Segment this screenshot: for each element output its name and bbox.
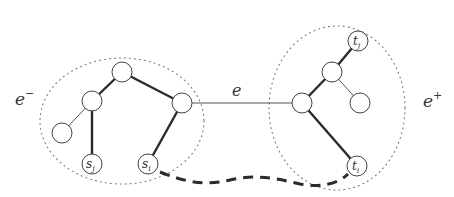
node-right-hub [292, 93, 312, 113]
label-e-minus: e− [15, 87, 34, 109]
label-e-plus: e+ [423, 89, 442, 111]
node-right-leaf [350, 93, 370, 113]
diagram-canvas: sj si tj ti e− e+ e [0, 0, 454, 197]
edge-right-hub-ti [302, 103, 357, 166]
node-left-leaf [52, 123, 72, 143]
node-left-top [112, 62, 132, 82]
node-right-mid [322, 62, 342, 82]
dashed-path-si-ti [160, 172, 348, 186]
node-left-mid [82, 91, 102, 111]
label-edge-e: e [232, 81, 241, 100]
tree-diagram: sj si tj ti e− e+ e [0, 0, 454, 197]
right-component-ellipse [269, 26, 405, 190]
node-left-right [172, 93, 192, 113]
